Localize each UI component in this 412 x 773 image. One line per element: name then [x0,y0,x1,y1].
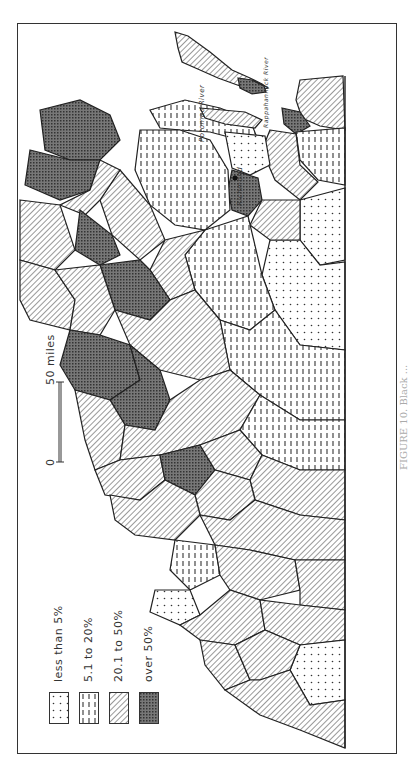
scale-bar [56,382,64,462]
legend-swatch-hatch [109,692,129,724]
legend-label-less-than-5: less than 5% [52,605,65,682]
scale-start-label: 0 [44,459,57,467]
richmond-label: Richmond [236,167,244,206]
scale-end-label: 50 miles [44,334,57,385]
state-outline [20,32,345,748]
figure-caption: FIGURE 10. Black ... [398,365,409,470]
rappahannock-river-label: Rappahannock River [262,57,269,128]
potomac-river-label: Potomac River [198,85,206,142]
legend-label-5-to-20: 5.1 to 20% [82,617,95,682]
legend-swatch-dashes [79,692,99,724]
legend-swatch-crosshatch [139,692,159,724]
legend-label-20-to-50: 20.1 to 50% [112,610,125,682]
legend-label-over-50: over 50% [142,626,155,682]
legend-swatch-dots [49,692,69,724]
